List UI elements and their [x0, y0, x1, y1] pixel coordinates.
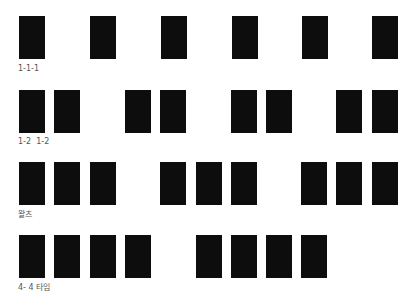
- beat-block: [19, 16, 45, 59]
- beat-block: [372, 16, 398, 59]
- beat-block: [232, 16, 258, 59]
- beat-block: [125, 235, 151, 278]
- rhythm-row-label: 4- 4 타임: [18, 283, 50, 293]
- beat-block: [160, 162, 186, 205]
- rhythm-row-label: 1-2 1-2: [18, 137, 49, 147]
- beat-block: [19, 162, 45, 205]
- beat-block: [336, 162, 362, 205]
- rhythm-row-label: 1-1-1: [18, 64, 39, 74]
- beat-block: [196, 235, 222, 278]
- beat-block: [54, 235, 80, 278]
- beat-block: [160, 90, 186, 133]
- beat-block: [372, 162, 398, 205]
- beat-block: [161, 16, 187, 59]
- beat-block: [231, 162, 257, 205]
- beat-block: [196, 162, 222, 205]
- beat-block: [231, 235, 257, 278]
- rhythm-row-label: 왈츠: [18, 210, 32, 220]
- beat-block: [90, 16, 116, 59]
- beat-block: [231, 90, 257, 133]
- beat-block: [90, 162, 116, 205]
- beat-block: [302, 16, 328, 59]
- beat-block: [301, 162, 327, 205]
- beat-block: [372, 90, 398, 133]
- beat-block: [266, 235, 292, 278]
- beat-block: [54, 90, 80, 133]
- beat-block: [54, 162, 80, 205]
- beat-block: [125, 90, 151, 133]
- beat-block: [301, 235, 327, 278]
- beat-block: [19, 235, 45, 278]
- beat-block: [336, 90, 362, 133]
- beat-block: [266, 90, 292, 133]
- beat-block: [90, 235, 116, 278]
- beat-block: [19, 90, 45, 133]
